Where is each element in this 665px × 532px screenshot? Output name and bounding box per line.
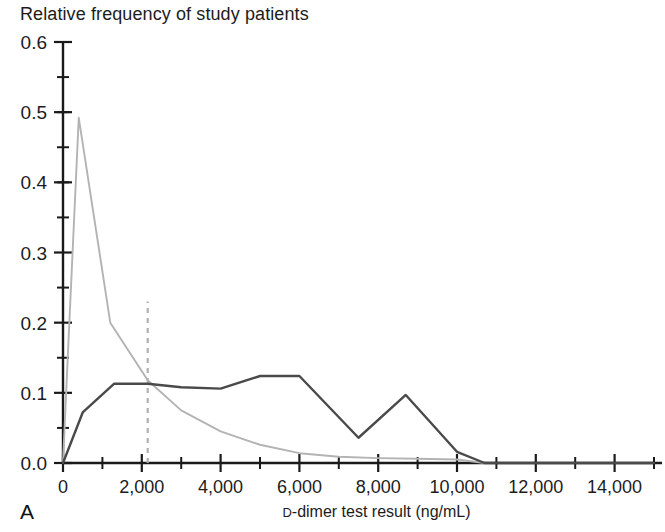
x-axis-label-prefix: D [282, 505, 291, 520]
y-tick-label: 0.3 [21, 243, 47, 264]
x-axis-label-rest: -dimer test result (ng/mL) [292, 503, 471, 520]
series-line-dark-gray-distribution [63, 376, 654, 463]
x-tick-label: 8,000 [356, 477, 401, 497]
x-tick-label: 2,000 [119, 477, 164, 497]
x-tick-label: 12,000 [508, 477, 563, 497]
y-tick-label: 0.4 [21, 172, 48, 193]
x-tick-label: 14,000 [587, 477, 642, 497]
y-tick-label: 0.0 [21, 453, 47, 474]
chart-plot-area: 0.00.10.20.30.40.50.602,0004,0006,0008,0… [0, 0, 665, 532]
x-tick-label: 10,000 [429, 477, 484, 497]
series-line-light-gray-distribution [63, 118, 654, 463]
x-axis-label: D-dimer test result (ng/mL) [0, 503, 665, 521]
x-tick-label: 6,000 [277, 477, 322, 497]
x-tick-label: 4,000 [198, 477, 243, 497]
figure-panel-a: Relative frequency of study patients 0.0… [0, 0, 665, 532]
y-tick-label: 0.5 [21, 102, 47, 123]
y-tick-label: 0.6 [21, 32, 47, 53]
y-tick-label: 0.1 [21, 383, 47, 404]
y-tick-label: 0.2 [21, 313, 47, 334]
x-tick-label: 0 [58, 477, 68, 497]
